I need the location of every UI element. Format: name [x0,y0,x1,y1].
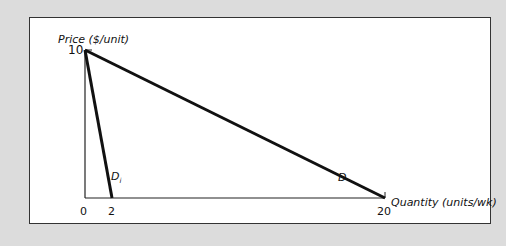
x-tick-label-0: 0 [80,205,87,218]
y-tick-label-10: 10 [68,43,83,57]
demand-curve-di [85,50,112,198]
curve-label-di: Di [111,170,121,185]
x-tick-label-20: 20 [377,205,391,218]
x-axis-label: Quantity (units/wk) [391,196,497,209]
curve-label-d: D [338,171,346,184]
demand-chart: Price ($/unit) 10 0 2 20 Quantity (units… [0,0,506,246]
x-tick-label-2: 2 [108,205,115,218]
